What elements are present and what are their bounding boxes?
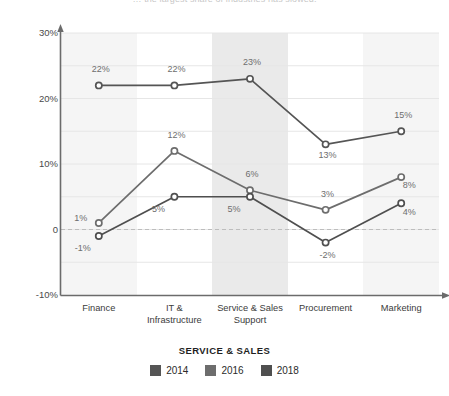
x-axis-tick: Marketing xyxy=(353,303,449,315)
data-point-marker xyxy=(96,220,102,226)
data-point-marker xyxy=(171,194,177,200)
line-chart-svg xyxy=(61,33,439,295)
data-point-marker xyxy=(398,128,404,134)
y-axis-tick: 10% xyxy=(18,158,58,169)
legend-label: 2018 xyxy=(277,365,299,376)
chart-root: … the largest share of industries has sl… xyxy=(0,0,449,396)
legend-color-swatch xyxy=(150,365,161,376)
data-point-marker xyxy=(247,76,253,82)
data-point-marker xyxy=(247,187,253,193)
legend-color-swatch xyxy=(205,365,216,376)
legend-label: 2014 xyxy=(166,365,188,376)
legend-item[interactable]: 2018 xyxy=(261,365,299,376)
plot-area: 22%22%23%13%15%1%12%6%3%8%-1%5%5%-2%4% xyxy=(61,33,439,295)
data-point-marker xyxy=(96,233,102,239)
legend-item[interactable]: 2014 xyxy=(150,365,188,376)
data-point-marker xyxy=(398,200,404,206)
x-axis-tick-line: Marketing xyxy=(353,303,449,315)
chart-legend: 201420162018 xyxy=(0,365,449,376)
y-axis-tick: 20% xyxy=(18,93,58,104)
x-axis-tick-labels: FinanceIT &InfrastructureService & Sales… xyxy=(61,303,439,337)
legend-label: 2016 xyxy=(221,365,243,376)
x-axis-tick-line: Support xyxy=(202,315,298,327)
y-axis-tick: 0 xyxy=(18,224,58,235)
y-axis-tick: 30% xyxy=(18,27,58,38)
data-point-marker xyxy=(247,194,253,200)
data-point-marker xyxy=(171,148,177,154)
legend-color-swatch xyxy=(261,365,272,376)
y-axis-arrow-icon xyxy=(57,24,63,32)
data-point-marker xyxy=(96,82,102,88)
series-line-2018 xyxy=(99,197,401,243)
data-point-marker xyxy=(323,207,329,213)
data-point-marker xyxy=(398,174,404,180)
series-line-2014 xyxy=(99,79,401,145)
y-axis-tick-labels: 30%20%10%0-10% xyxy=(14,33,58,295)
data-point-marker xyxy=(323,240,329,246)
x-axis-title: SERVICE & SALES xyxy=(0,345,449,356)
x-axis-arrow-icon xyxy=(442,292,449,298)
data-point-marker xyxy=(171,82,177,88)
cut-off-caption: … the largest share of industries has sl… xyxy=(0,0,449,4)
legend-item[interactable]: 2016 xyxy=(205,365,243,376)
data-point-marker xyxy=(323,141,329,147)
y-axis-tick: -10% xyxy=(18,289,58,300)
